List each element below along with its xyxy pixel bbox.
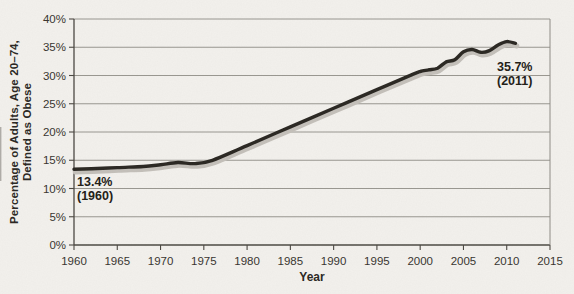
- chart-canvas: 0%5%10%15%20%25%30%35%40%196019651970197…: [0, 0, 574, 294]
- x-axis-title: Year: [74, 270, 550, 284]
- annotation-2011-value: 35.7%: [497, 60, 532, 74]
- y-axis-title: Percentage of Adults, Age 20–74, Defined…: [8, 32, 34, 232]
- obesity-trend-figure: 0%5%10%15%20%25%30%35%40%196019651970197…: [0, 0, 574, 294]
- annotation-1960-value: 13.4%: [77, 175, 113, 189]
- annotation-1960-year: (1960): [77, 189, 113, 203]
- annotation-1960: 13.4% (1960): [77, 175, 113, 203]
- paper-noise-overlay: [0, 0, 574, 294]
- y-axis-title-line2: Defined as Obese: [21, 32, 34, 232]
- y-axis-title-line1: Percentage of Adults, Age 20–74,: [8, 32, 21, 232]
- annotation-2011: 35.7% (2011): [497, 60, 532, 88]
- annotation-2011-year: (2011): [497, 74, 532, 88]
